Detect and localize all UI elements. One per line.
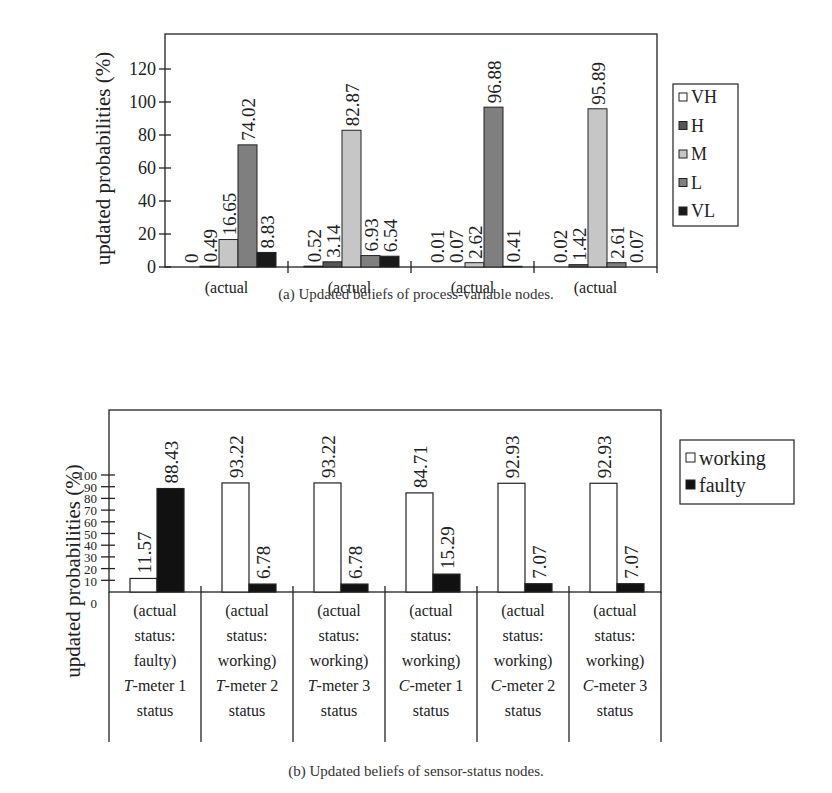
bar-faulty <box>617 584 644 592</box>
bar-working <box>314 483 341 592</box>
category-label-line: working) <box>218 652 277 670</box>
category-label-line: status: <box>227 627 268 644</box>
bar-value-label: 0.07 <box>626 230 647 263</box>
legend-swatch-faulty <box>686 480 695 489</box>
legend-label-l: L <box>691 173 702 193</box>
category-label-status: status <box>413 702 449 719</box>
bar-m <box>588 109 607 267</box>
plot-frame <box>109 410 661 592</box>
category-label-status: status <box>597 702 633 719</box>
y-tick-label: 0 <box>91 596 98 611</box>
legend-swatch-h <box>679 122 687 130</box>
category-label-line: (actual <box>409 602 453 620</box>
bar-vl <box>503 266 522 267</box>
bar-faulty <box>249 584 276 592</box>
bar-value-label: 2.61 <box>607 225 628 258</box>
legend-swatch-l <box>679 179 687 187</box>
legend-label-h: H <box>691 116 704 136</box>
bar-vh <box>304 266 323 267</box>
bar-value-label: 92.93 <box>594 436 615 479</box>
bar-m <box>219 240 238 267</box>
bar-value-label: 0.41 <box>503 229 524 262</box>
bar-value-label: 3.14 <box>323 224 344 258</box>
bar-value-label: 0.01 <box>427 230 448 263</box>
legend-b: workingfaulty <box>680 440 794 504</box>
bar-value-label: 0.52 <box>304 229 325 262</box>
bar-value-label: 1.42 <box>569 227 590 260</box>
y-tick-label: 40 <box>138 191 156 211</box>
category-meter-name: C-meter 3 <box>583 677 647 694</box>
bar-value-label: 11.57 <box>134 531 155 573</box>
bar-value-label: 0 <box>181 254 202 264</box>
bar-value-label: 0.07 <box>446 230 467 263</box>
bar-value-label: 6.54 <box>380 218 401 252</box>
legend-swatch-working <box>686 453 695 462</box>
legend-label-vh: VH <box>691 87 717 107</box>
caption-a: (a) Updated beliefs of process-variable … <box>0 286 832 303</box>
bar-value-label: 15.29 <box>437 526 458 569</box>
bar-value-label: 96.88 <box>484 60 505 103</box>
bar-value-label: 93.22 <box>226 435 247 478</box>
category-label-line: (actual <box>133 602 177 620</box>
bar-value-label: 6.93 <box>361 218 382 251</box>
y-tick-label: 60 <box>138 158 156 178</box>
bar-value-label: 93.22 <box>318 435 339 478</box>
bar-value-label: 6.78 <box>345 546 366 579</box>
bar-value-label: 7.07 <box>529 545 550 578</box>
bar-vl <box>380 256 399 267</box>
category-label-line: status: <box>319 627 360 644</box>
y-tick-label: 20 <box>138 224 156 244</box>
category-label-line: status: <box>595 627 636 644</box>
bar-value-label: 16.65 <box>219 193 240 236</box>
category-meter-name: T-meter 2 <box>216 677 279 694</box>
bar-working <box>498 483 525 592</box>
category-label-line: working) <box>310 652 369 670</box>
bar-working <box>590 483 617 592</box>
bar-value-label: 95.89 <box>588 62 609 105</box>
bar-l <box>238 145 257 267</box>
category-label-line: status: <box>135 627 176 644</box>
bar-value-label: 0.49 <box>200 229 221 262</box>
bar-value-label: 0.02 <box>550 230 571 263</box>
legend-swatch-vl <box>679 207 687 215</box>
category-label-line: working) <box>402 652 461 670</box>
bar-m <box>465 263 484 267</box>
bar-value-label: 8.83 <box>257 215 278 248</box>
legend-label-m: M <box>691 144 707 164</box>
bar-value-label: 6.78 <box>253 546 274 579</box>
category-label-line: faulty) <box>134 652 177 670</box>
y-tick-label: 80 <box>138 125 156 145</box>
category-label-line: (actual <box>593 602 637 620</box>
bar-value-label: 84.71 <box>410 445 431 488</box>
legend-label-working: working <box>699 447 766 470</box>
legend-swatch-m <box>679 150 687 158</box>
category-meter-name: T-meter 3 <box>308 677 371 694</box>
chart-sensor-status-beliefs: 0102030405060708090100updated probabilit… <box>0 310 832 750</box>
category-meter-name: T-meter 1 <box>124 677 187 694</box>
bar-working <box>222 483 249 592</box>
bar-value-label: 88.43 <box>161 441 182 484</box>
bar-h <box>323 262 342 267</box>
legend-swatch-vh <box>679 93 687 101</box>
category-meter-name: C-meter 2 <box>491 677 555 694</box>
category-label-line: working) <box>494 652 553 670</box>
bar-h <box>200 266 219 267</box>
category-label-line: (actual <box>317 602 361 620</box>
bar-value-label: 92.93 <box>502 436 523 479</box>
category-label-line: (actual <box>501 602 545 620</box>
legend-label-faulty: faulty <box>699 474 746 497</box>
category-label-status: status <box>229 702 265 719</box>
category-label-line: status: <box>503 627 544 644</box>
legend-a: VHHMLVL <box>673 84 738 226</box>
bar-l <box>484 107 503 267</box>
bar-working <box>130 578 157 592</box>
bar-faulty <box>341 584 368 592</box>
category-label-status: status <box>505 702 541 719</box>
category-meter-name: C-meter 1 <box>399 677 463 694</box>
bar-value-label: 2.62 <box>465 225 486 258</box>
category-label-line: working) <box>586 652 645 670</box>
bar-value-label: 74.02 <box>238 98 259 141</box>
bar-faulty <box>157 489 184 592</box>
category-label-status: status <box>137 702 173 719</box>
y-axis-label: updated probabilities (%) <box>91 52 115 265</box>
